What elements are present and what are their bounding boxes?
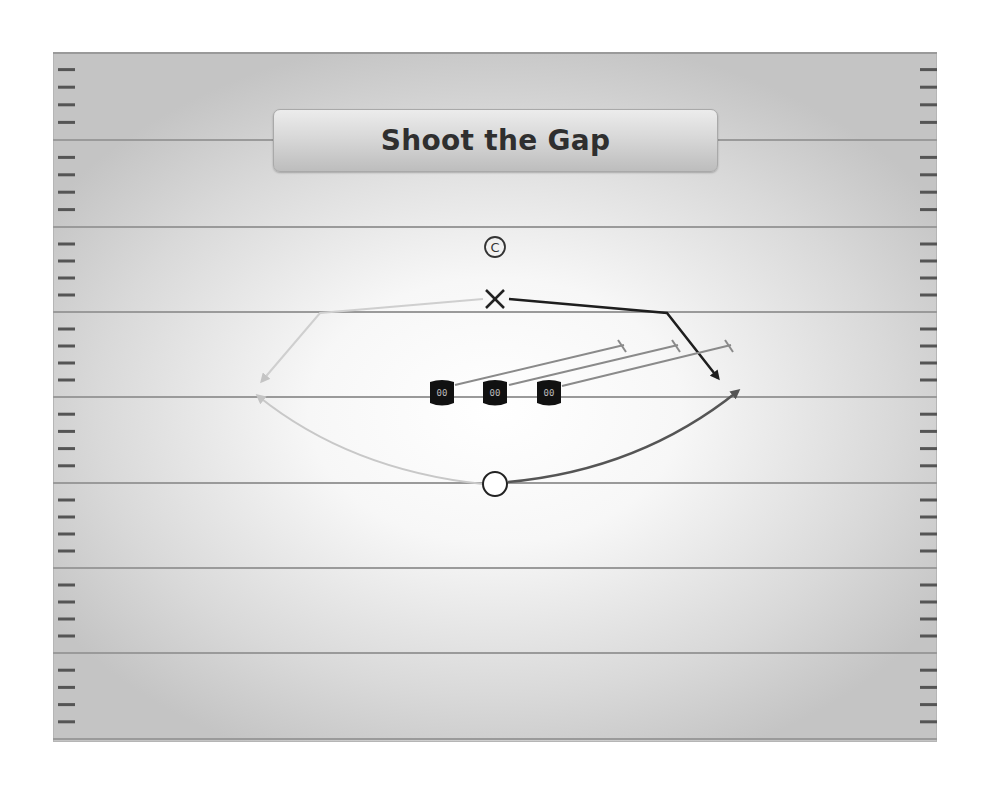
play-title: Shoot the Gap (381, 124, 611, 157)
route-qb-right (509, 299, 718, 378)
svg-text:00: 00 (544, 388, 555, 398)
linemen: 00 00 00 (430, 380, 561, 406)
route-rb-left (258, 396, 483, 484)
svg-text:00: 00 (490, 388, 501, 398)
title-banner: Shoot the Gap (273, 109, 718, 172)
running-back-o-icon (483, 472, 507, 496)
lineman-1: 00 (430, 380, 454, 406)
svg-text:C: C (490, 240, 499, 255)
lineman-2: 00 (483, 380, 507, 406)
lineman-3: 00 (537, 380, 561, 406)
quarterback-x-icon (486, 290, 504, 308)
svg-text:00: 00 (437, 388, 448, 398)
center-marker: C (485, 237, 505, 257)
block-lines (455, 340, 733, 386)
